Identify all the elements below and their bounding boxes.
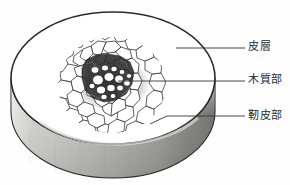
label-cortex: 皮層	[248, 41, 271, 52]
diagram-canvas	[0, 0, 290, 185]
label-xylem: 木質部	[248, 74, 283, 85]
label-phloem: 靭皮部	[248, 110, 283, 121]
plant-stem-cross-section-figure: 皮層 木質部 靭皮部	[0, 0, 290, 185]
